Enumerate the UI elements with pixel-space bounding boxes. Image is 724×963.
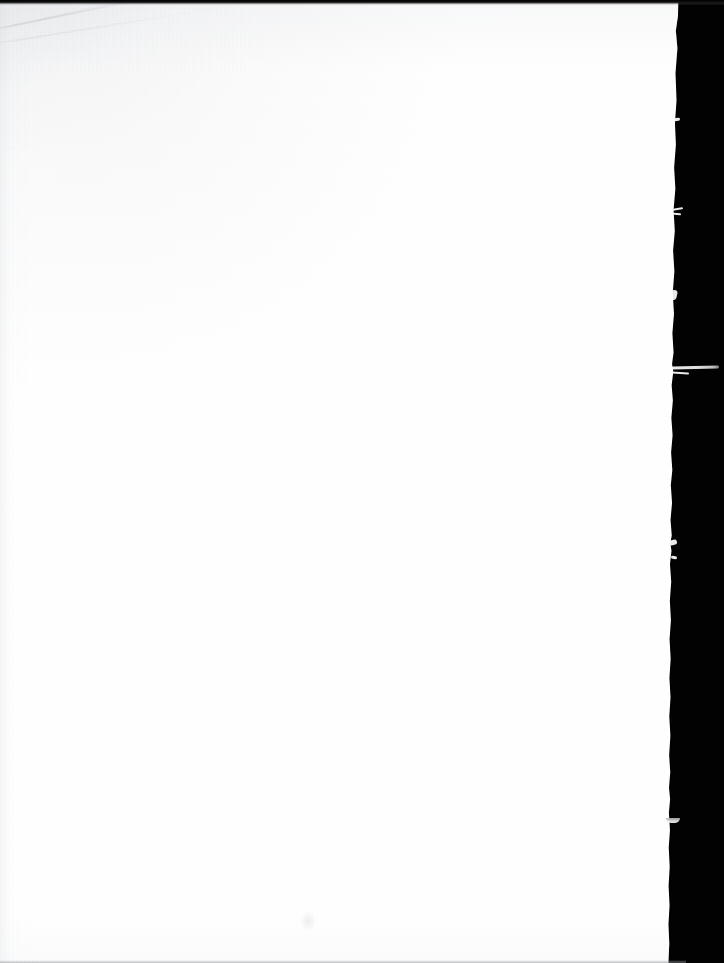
paper-smudge-mark [300, 910, 316, 932]
paper-grain-texture [0, 0, 690, 963]
corner-shading [0, 0, 330, 150]
torn-edge-fiber [671, 556, 677, 560]
scanned-sheet [0, 0, 690, 963]
top-scan-band [0, 0, 724, 5]
fold-crease-secondary [0, 3, 243, 46]
scanned-page-image: Blank page — no printed text, figures, o… [0, 0, 724, 963]
